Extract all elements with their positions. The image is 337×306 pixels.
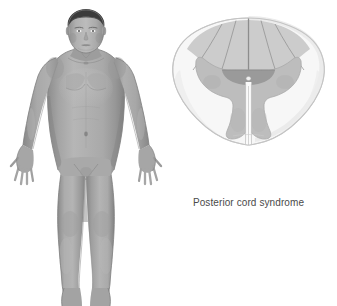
feet-group xyxy=(62,288,111,306)
left-knee xyxy=(61,211,79,237)
left-leg xyxy=(58,168,85,306)
right-finger-1 xyxy=(153,166,157,180)
left-pupil xyxy=(78,30,80,32)
central-canal xyxy=(246,77,251,81)
cord-syndrome-label: Posterior cord syndrome xyxy=(160,196,337,210)
right-finger-4 xyxy=(139,169,141,181)
right-deltoid xyxy=(108,57,126,79)
suprasternal-notch xyxy=(83,61,88,64)
right-hand xyxy=(138,145,161,184)
right-anterior-horn-shading xyxy=(251,108,267,132)
spinal-cord-svg xyxy=(160,8,337,193)
right-pupil xyxy=(92,30,94,32)
navel xyxy=(84,132,88,137)
left-anterior-horn-shading xyxy=(230,108,246,132)
spinal-cord-cross-section xyxy=(160,8,337,193)
groin-shadow xyxy=(80,167,92,177)
head-group xyxy=(66,9,106,53)
left-finger-1 xyxy=(15,166,19,180)
left-finger-4 xyxy=(31,169,33,181)
body-figure-svg xyxy=(0,0,165,306)
right-knee xyxy=(93,211,111,237)
anatomical-body-figure xyxy=(0,0,165,306)
left-hand xyxy=(11,145,34,184)
left-deltoid xyxy=(46,57,64,79)
right-forearm-highlight xyxy=(137,108,145,140)
legs-group xyxy=(58,168,115,306)
right-lateral-horn-shading xyxy=(276,75,294,89)
left-forearm-highlight xyxy=(27,108,35,140)
left-foot xyxy=(62,288,82,306)
right-foot xyxy=(90,288,110,306)
left-lateral-horn-shading xyxy=(203,75,221,89)
